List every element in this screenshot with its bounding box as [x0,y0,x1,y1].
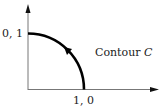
contour-name: C [144,46,153,59]
contour-arc [28,34,84,90]
x-axis-arrow-icon [150,87,159,92]
contour-diagram: 0, 1 1, 0 Contour C [0,0,165,109]
y-axis-arrow-icon [26,4,31,13]
x-point-label: 1, 0 [73,94,94,107]
contour-label: Contour C [95,46,153,59]
y-point-label: 0, 1 [2,27,23,40]
contour-label-text: Contour [95,46,144,59]
